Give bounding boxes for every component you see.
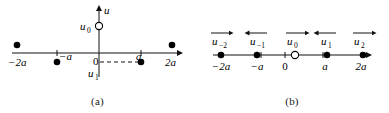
vector-u-minus-2-base: u [212,35,218,47]
point-minus-2a [218,52,225,59]
vector-u-1-subscript: 1 [328,41,332,50]
point-u0 [95,22,102,29]
point-zero [291,51,298,58]
panel-a-ticklabel-a: a [136,50,142,62]
point-minus-a [254,52,261,59]
vector-u-0-base: u [287,35,293,47]
label-u0-subscript: 0 [87,26,91,35]
vector-u-2-base: u [354,35,360,47]
label-u1-base: u [88,67,94,79]
panel-a-ticklabel-2a: 2a [165,56,177,68]
panel-b-ticklabel-minus-a: −a [251,60,264,72]
point-minus-2a [14,42,21,49]
panel-b-ticklabel-a: a [322,60,328,72]
label-u1-subscript: 1 [95,73,99,82]
vector-u-minus-2-subscript: −2 [219,41,227,50]
panel-a: u u 0 u 1 −2a −a 0 a 2a (a) [0,0,195,113]
label-u0-base: u [80,20,86,32]
vector-u-2-subscript: 2 [361,41,365,50]
panel-a-y-axis-label: u [104,4,110,16]
panel-a-ticklabel-minus-a: −a [59,50,72,62]
figure-two-panels: u u 0 u 1 −2a −a 0 a 2a (a) [0,0,389,113]
panel-a-ticklabel-zero: 0 [93,55,99,67]
vector-u-minus-1-subscript: −1 [257,41,265,50]
vector-u-minus-1-base: u [250,35,256,47]
panel-b-ticklabel-minus-2a: −2a [212,60,231,72]
panel-b-ticklabel-2a: 2a [356,60,368,72]
panel-b-diagram: u −2 u −1 u 0 u 1 u 2 −2a −a 0 a 2a [195,0,389,92]
panel-a-diagram: u u 0 u 1 −2a −a 0 a 2a [0,0,195,92]
vector-u-1-base: u [321,35,327,47]
vector-u-0-subscript: 0 [294,41,298,50]
panel-a-ticklabel-minus-2a: −2a [8,56,27,68]
panel-b-caption: (b) [195,95,389,107]
point-a [324,52,331,59]
panel-a-caption: (a) [0,95,195,107]
point-2a [360,52,367,59]
point-2a [169,42,176,49]
panel-b: u −2 u −1 u 0 u 1 u 2 −2a −a 0 a 2a (b) [195,0,389,113]
panel-b-ticklabel-zero: 0 [282,60,288,72]
